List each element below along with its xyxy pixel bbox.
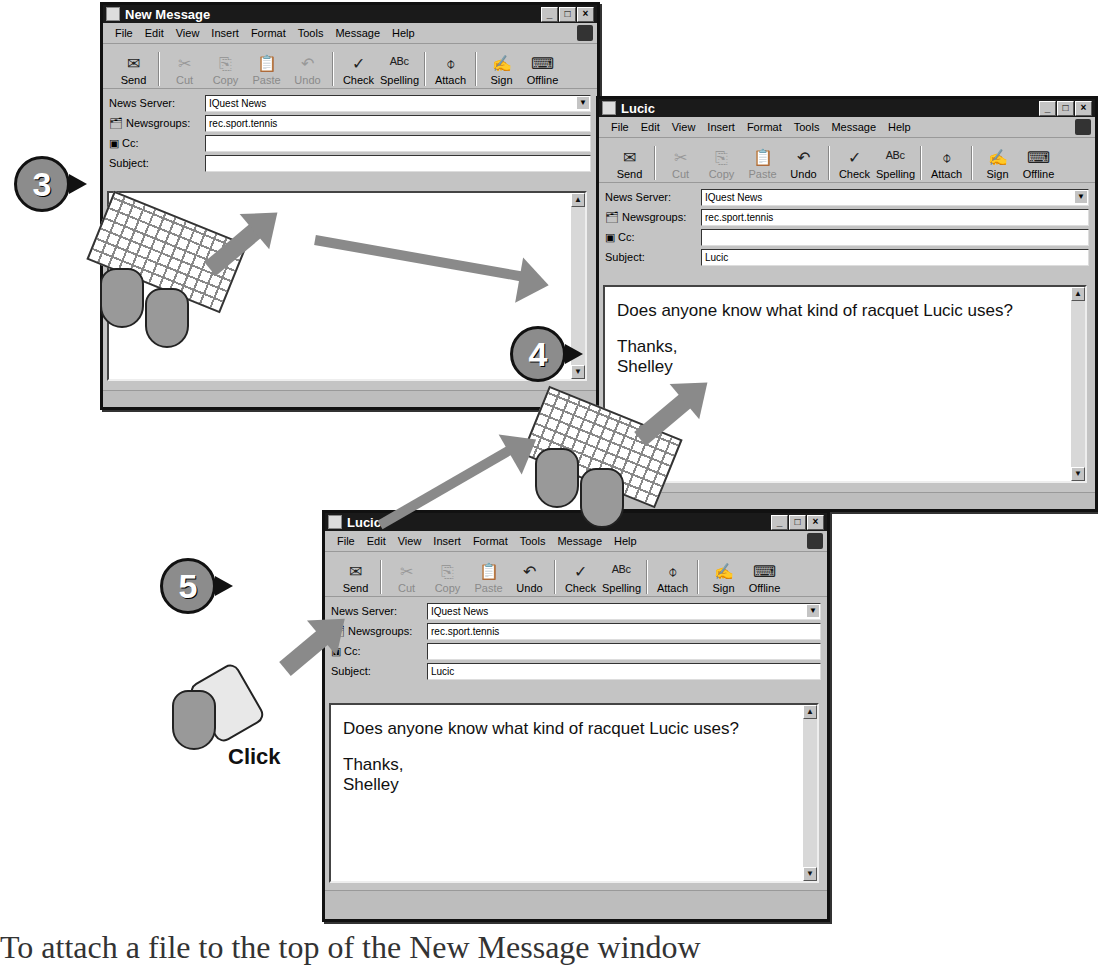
close-button[interactable]: ×	[807, 515, 824, 530]
cc-field[interactable]	[427, 643, 821, 660]
close-button[interactable]: ×	[577, 7, 594, 22]
toolbar: ✉Send ✂Cut ⎘Copy 📋Paste ↶Undo ✓Check ᴬᴮᶜ…	[103, 44, 597, 89]
copy-button[interactable]: ⎘Copy	[427, 562, 468, 594]
check-button[interactable]: ✓Check	[338, 54, 379, 86]
send-button[interactable]: ✉Send	[113, 54, 154, 86]
copy-button[interactable]: ⎘Copy	[701, 148, 742, 180]
newsgroups-field[interactable]: rec.sport.tennis	[701, 209, 1089, 226]
send-button[interactable]: ✉Send	[609, 148, 650, 180]
cc-field[interactable]	[701, 229, 1089, 246]
news-server-select[interactable]: IQuest News▼	[205, 95, 591, 112]
menu-edit[interactable]: Edit	[641, 121, 660, 133]
paste-button[interactable]: 📋Paste	[742, 148, 783, 180]
message-body[interactable]: Does anyone know what kind of racquet Lu…	[329, 703, 819, 883]
menu-edit[interactable]: Edit	[145, 27, 164, 39]
check-names-icon: ✓	[352, 54, 365, 74]
paste-button[interactable]: 📋Paste	[468, 562, 509, 594]
undo-button[interactable]: ↶Undo	[509, 562, 550, 594]
menu-view[interactable]: View	[672, 121, 696, 133]
app-icon	[106, 7, 120, 21]
sign-button[interactable]: ✍Sign	[481, 54, 522, 86]
close-button[interactable]: ×	[1075, 101, 1092, 116]
offline-button[interactable]: ⌨Offline	[744, 562, 785, 594]
paste-button[interactable]: 📋Paste	[246, 54, 287, 86]
offline-button[interactable]: ⌨Offline	[522, 54, 563, 86]
subject-field[interactable]	[205, 155, 591, 172]
offline-icon: ⌨	[753, 562, 776, 582]
sign-button[interactable]: ✍Sign	[977, 148, 1018, 180]
send-icon: ✉	[623, 148, 636, 168]
menu-view[interactable]: View	[398, 535, 422, 547]
menu-view[interactable]: View	[176, 27, 200, 39]
app-icon	[328, 515, 342, 529]
minimize-button[interactable]: _	[541, 7, 558, 22]
title-bar[interactable]: Lucic _□×	[599, 99, 1095, 117]
spelling-button[interactable]: ᴬᴮᶜSpelling	[601, 562, 642, 594]
newsgroups-label: Newsgroups:	[126, 117, 190, 129]
menu-message[interactable]: Message	[831, 121, 876, 133]
menu-format[interactable]: Format	[747, 121, 782, 133]
title-bar[interactable]: New Message _□×	[103, 5, 597, 23]
menu-insert[interactable]: Insert	[707, 121, 735, 133]
attach-button[interactable]: ⌽Attach	[926, 148, 967, 180]
menu-tools[interactable]: Tools	[298, 27, 324, 39]
undo-button[interactable]: ↶Undo	[783, 148, 824, 180]
scroll-down-icon[interactable]: ▼	[803, 867, 817, 881]
scroll-down-icon[interactable]: ▼	[571, 365, 585, 379]
attach-button[interactable]: ⌽Attach	[652, 562, 693, 594]
sign-button[interactable]: ✍Sign	[703, 562, 744, 594]
menu-message[interactable]: Message	[557, 535, 602, 547]
menu-tools[interactable]: Tools	[520, 535, 546, 547]
spelling-button[interactable]: ᴬᴮᶜSpelling	[379, 54, 420, 86]
menu-format[interactable]: Format	[473, 535, 508, 547]
scroll-down-icon[interactable]: ▼	[1071, 467, 1085, 481]
send-button[interactable]: ✉Send	[335, 562, 376, 594]
menu-insert[interactable]: Insert	[211, 27, 239, 39]
menu-help[interactable]: Help	[888, 121, 911, 133]
newsgroups-field[interactable]: rec.sport.tennis	[205, 115, 591, 132]
menu-help[interactable]: Help	[392, 27, 415, 39]
scroll-up-icon[interactable]: ▲	[1071, 287, 1085, 301]
menu-message[interactable]: Message	[335, 27, 380, 39]
minimize-button[interactable]: _	[1039, 101, 1056, 116]
minimize-button[interactable]: _	[771, 515, 788, 530]
newsgroups-field[interactable]: rec.sport.tennis	[427, 623, 821, 640]
menu-insert[interactable]: Insert	[433, 535, 461, 547]
menu-tools[interactable]: Tools	[794, 121, 820, 133]
check-button[interactable]: ✓Check	[834, 148, 875, 180]
chevron-down-icon[interactable]: ▼	[577, 97, 589, 109]
status-bar	[325, 890, 827, 919]
step-4-badge: 4	[510, 326, 566, 382]
check-button[interactable]: ✓Check	[560, 562, 601, 594]
scrollbar[interactable]: ▲▼	[803, 705, 817, 881]
spelling-button[interactable]: ᴬᴮᶜSpelling	[875, 148, 916, 180]
scrollbar[interactable]: ▲▼	[1071, 287, 1085, 481]
cut-button[interactable]: ✂Cut	[386, 562, 427, 594]
chevron-down-icon[interactable]: ▼	[807, 605, 819, 617]
menu-edit[interactable]: Edit	[367, 535, 386, 547]
clicking-hand-illustration	[172, 690, 216, 750]
menu-file[interactable]: File	[611, 121, 629, 133]
news-server-select[interactable]: IQuest News▼	[701, 189, 1089, 206]
menu-help[interactable]: Help	[614, 535, 637, 547]
chevron-down-icon[interactable]: ▼	[1075, 191, 1087, 203]
cut-button[interactable]: ✂Cut	[164, 54, 205, 86]
undo-button[interactable]: ↶Undo	[287, 54, 328, 86]
menu-file[interactable]: File	[337, 535, 355, 547]
news-server-select[interactable]: IQuest News▼	[427, 603, 821, 620]
subject-field[interactable]: Lucic	[701, 249, 1089, 266]
attach-button[interactable]: ⌽Attach	[430, 54, 471, 86]
menu-file[interactable]: File	[115, 27, 133, 39]
scroll-up-icon[interactable]: ▲	[571, 193, 585, 207]
cc-field[interactable]	[205, 135, 591, 152]
copy-button[interactable]: ⎘Copy	[205, 54, 246, 86]
subject-field[interactable]: Lucic	[427, 663, 821, 680]
maximize-button[interactable]: □	[559, 7, 576, 22]
menu-format[interactable]: Format	[251, 27, 286, 39]
offline-button[interactable]: ⌨Offline	[1018, 148, 1059, 180]
scroll-up-icon[interactable]: ▲	[803, 705, 817, 719]
maximize-button[interactable]: □	[789, 515, 806, 530]
offline-icon: ⌨	[531, 54, 554, 74]
cut-button[interactable]: ✂Cut	[660, 148, 701, 180]
maximize-button[interactable]: □	[1057, 101, 1074, 116]
